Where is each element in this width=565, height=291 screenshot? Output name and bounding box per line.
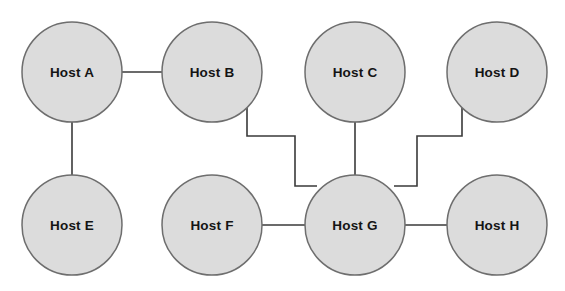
- node-host-g[interactable]: Host G: [305, 175, 405, 275]
- nodes-layer: Host AHost BHost CHost DHost EHost FHost…: [22, 22, 547, 275]
- network-diagram: Host AHost BHost CHost DHost EHost FHost…: [0, 0, 565, 291]
- node-label-d: Host D: [475, 65, 520, 80]
- node-label-c: Host C: [333, 65, 378, 80]
- link-d-g: [394, 108, 462, 186]
- node-host-d[interactable]: Host D: [447, 22, 547, 122]
- node-host-b[interactable]: Host B: [162, 22, 262, 122]
- node-label-a: Host A: [50, 65, 94, 80]
- node-label-e: Host E: [50, 218, 94, 233]
- links-layer: [72, 72, 462, 225]
- node-host-h[interactable]: Host H: [447, 175, 547, 275]
- node-host-e[interactable]: Host E: [22, 175, 122, 275]
- node-label-h: Host H: [475, 218, 520, 233]
- node-label-f: Host F: [190, 218, 233, 233]
- node-host-c[interactable]: Host C: [305, 22, 405, 122]
- node-host-a[interactable]: Host A: [22, 22, 122, 122]
- network-topology-canvas: Host AHost BHost CHost DHost EHost FHost…: [0, 0, 565, 291]
- link-b-g: [247, 108, 317, 186]
- node-host-f[interactable]: Host F: [162, 175, 262, 275]
- node-label-b: Host B: [190, 65, 235, 80]
- node-label-g: Host G: [332, 218, 377, 233]
